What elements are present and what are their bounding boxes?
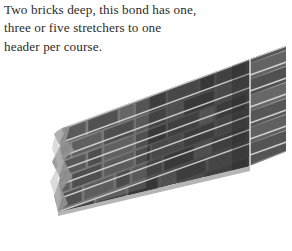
- page-root: Two bricks deep, this bond has one, thre…: [0, 0, 292, 251]
- wall-return-face: [250, 34, 288, 166]
- brick-wall-illustration: [0, 0, 292, 251]
- brick-wall-svg: [0, 0, 292, 251]
- wall-front-face: [44, 59, 250, 249]
- wall-body: [44, 34, 288, 249]
- return-face-bricks: [250, 34, 288, 164]
- front-face-corner-shadow: [232, 59, 250, 173]
